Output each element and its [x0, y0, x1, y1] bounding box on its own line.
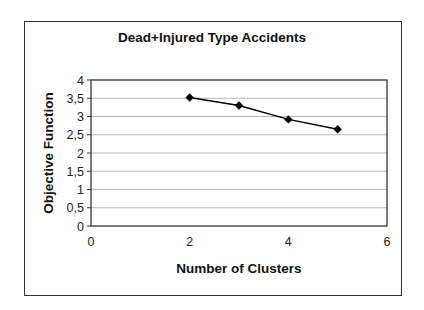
y-tick-label: 1: [77, 183, 84, 197]
x-tick-label: 0: [88, 235, 95, 249]
x-tick-label: 2: [186, 235, 193, 249]
y-tick-label: 0: [77, 220, 84, 234]
x-tick-label: 6: [384, 235, 391, 249]
diamond-marker: [333, 125, 341, 133]
y-tick-label: 3: [77, 110, 84, 124]
y-tick-label: 2,5: [67, 128, 84, 142]
y-tick-label: 0,5: [67, 201, 84, 215]
data-line: [190, 98, 338, 130]
y-tick-label: 4: [77, 74, 84, 88]
y-tick-label: 2: [77, 147, 84, 161]
diamond-marker: [185, 93, 193, 101]
plot-area: 00,511,522,533,540246: [0, 0, 424, 310]
y-tick-label: 3,5: [67, 92, 84, 106]
x-tick-label: 4: [285, 235, 292, 249]
diamond-marker: [235, 101, 243, 109]
y-tick-label: 1,5: [67, 165, 84, 179]
